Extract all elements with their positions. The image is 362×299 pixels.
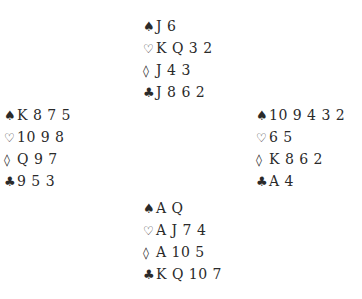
east-diamonds-cards: K 8 6 2 — [269, 151, 323, 167]
north-spades-cards: J 6 — [156, 18, 176, 34]
heart-icon: ♡ — [4, 127, 17, 149]
east-clubs: ♣A 4 — [256, 170, 345, 192]
spade-icon: ♠ — [256, 105, 269, 127]
spade-icon: ♠ — [4, 105, 17, 127]
south-diamonds: ◊A 10 5 — [143, 241, 222, 263]
east-spades: ♠10 9 4 3 2 — [256, 104, 345, 126]
heart-icon: ♡ — [256, 127, 269, 149]
diamond-icon: ◊ — [256, 149, 269, 171]
club-icon: ♣ — [4, 171, 17, 193]
east-clubs-cards: A 4 — [269, 173, 294, 189]
east-hearts: ♡6 5 — [256, 126, 345, 148]
heart-icon: ♡ — [143, 220, 156, 242]
north-diamonds: ◊J 4 3 — [143, 59, 213, 81]
south-spades-cards: A Q — [156, 200, 184, 216]
west-clubs: ♣9 5 3 — [4, 170, 71, 192]
west-hand: ♠K 8 7 5 ♡10 9 8 ◊Q 9 7 ♣9 5 3 — [4, 104, 71, 192]
north-hearts: ♡K Q 3 2 — [143, 37, 213, 59]
north-hand: ♠J 6 ♡K Q 3 2 ◊J 4 3 ♣J 8 6 2 — [143, 15, 213, 103]
club-icon: ♣ — [256, 171, 269, 193]
west-spades: ♠K 8 7 5 — [4, 104, 71, 126]
east-diamonds: ◊K 8 6 2 — [256, 148, 345, 170]
east-hand: ♠10 9 4 3 2 ♡6 5 ◊K 8 6 2 ♣A 4 — [256, 104, 345, 192]
north-hearts-cards: K Q 3 2 — [156, 40, 213, 56]
spade-icon: ♠ — [143, 198, 156, 220]
south-spades: ♠A Q — [143, 197, 222, 219]
west-diamonds-cards: Q 9 7 — [17, 151, 58, 167]
west-spades-cards: K 8 7 5 — [17, 107, 71, 123]
heart-icon: ♡ — [143, 38, 156, 60]
south-hearts-cards: A J 7 4 — [156, 222, 206, 238]
north-clubs: ♣J 8 6 2 — [143, 81, 213, 103]
club-icon: ♣ — [143, 82, 156, 104]
south-clubs: ♣K Q 10 7 — [143, 263, 222, 285]
spade-icon: ♠ — [143, 16, 156, 38]
west-diamonds: ◊Q 9 7 — [4, 148, 71, 170]
south-clubs-cards: K Q 10 7 — [156, 266, 222, 282]
diamond-icon: ◊ — [143, 60, 156, 82]
west-clubs-cards: 9 5 3 — [17, 173, 55, 189]
east-spades-cards: 10 9 4 3 2 — [269, 107, 345, 123]
south-diamonds-cards: A 10 5 — [156, 244, 205, 260]
south-hand: ♠A Q ♡A J 7 4 ◊A 10 5 ♣K Q 10 7 — [143, 197, 222, 285]
diamond-icon: ◊ — [143, 242, 156, 264]
north-clubs-cards: J 8 6 2 — [156, 84, 205, 100]
south-hearts: ♡A J 7 4 — [143, 219, 222, 241]
club-icon: ♣ — [143, 264, 156, 286]
north-diamonds-cards: J 4 3 — [156, 62, 191, 78]
east-hearts-cards: 6 5 — [269, 129, 293, 145]
west-hearts: ♡10 9 8 — [4, 126, 71, 148]
north-spades: ♠J 6 — [143, 15, 213, 37]
diamond-icon: ◊ — [4, 149, 17, 171]
west-hearts-cards: 10 9 8 — [17, 129, 65, 145]
